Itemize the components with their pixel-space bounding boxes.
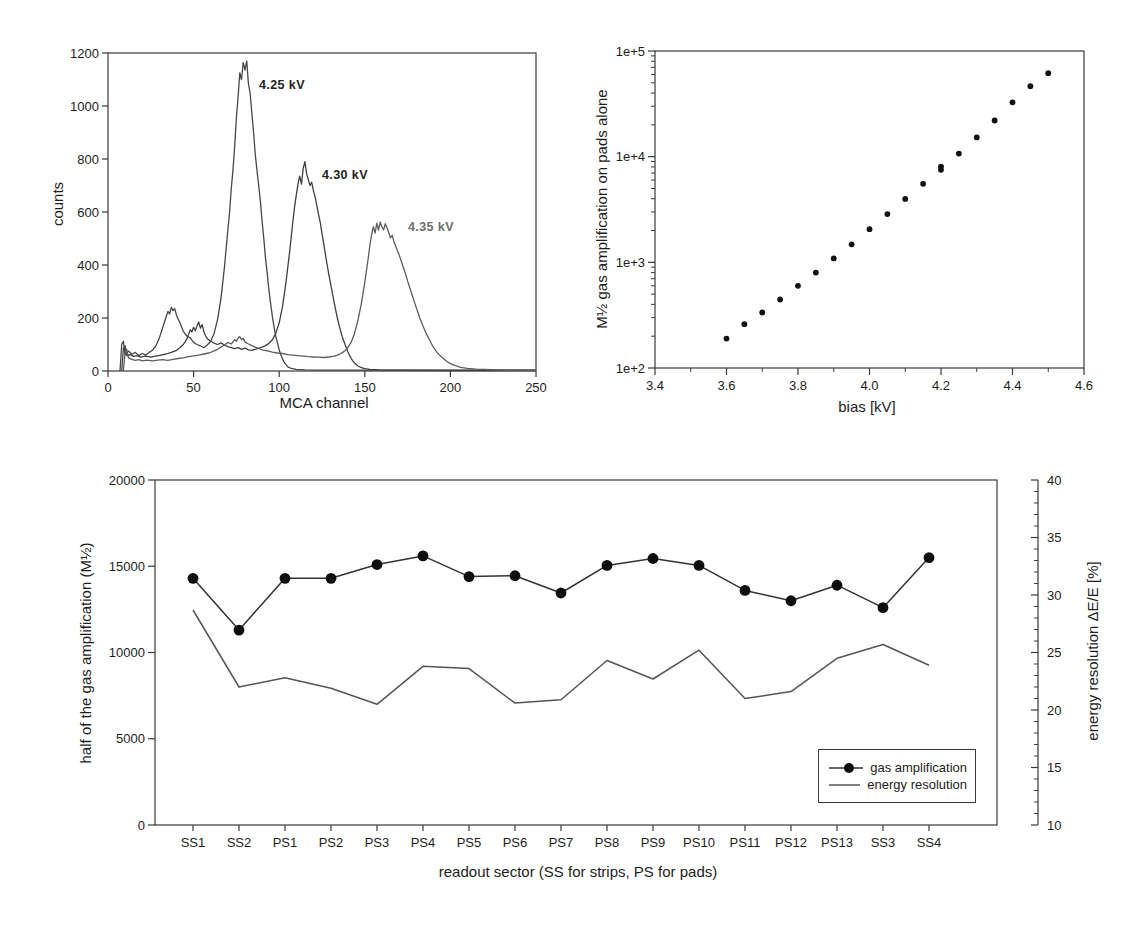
data-point-marker	[924, 552, 935, 563]
data-point-marker	[740, 585, 751, 596]
category-label: PS9	[641, 835, 666, 850]
legend-entry-gas-amplification: gas amplification	[827, 760, 967, 775]
y-tick-label: 1e+2	[616, 361, 645, 376]
category-label: PS8	[595, 835, 620, 850]
series-spectrum-4-25-kv	[120, 61, 536, 371]
peak-label-4-25kv: 4.25 kV	[259, 78, 305, 92]
series-spectrum-4-30-kv	[122, 162, 536, 371]
readout-sector-axis-title: readout sector (SS for strips, PS for pa…	[439, 863, 717, 880]
x-tick-label: 50	[186, 380, 200, 395]
plot-frame	[108, 53, 536, 371]
data-point-marker	[464, 571, 475, 582]
category-label: SS4	[917, 835, 942, 850]
plot-frame	[655, 51, 1084, 368]
right-axis-title: energy resolution ΔE/E [%]	[1084, 561, 1101, 740]
scatter-point	[992, 118, 998, 124]
scatter-point	[920, 181, 926, 187]
right-y-tick-label: 25	[1047, 645, 1061, 660]
x-tick-label: 3.8	[789, 378, 807, 393]
data-point-marker	[556, 588, 567, 599]
data-point-marker	[694, 560, 705, 571]
legend-box: gas amplification energy resolution	[818, 749, 976, 803]
y-tick-label: 1e+4	[616, 149, 645, 164]
sector-uniformity-chart: 05000100001500020000SS1SS2PS1PS2PS3PS4PS…	[55, 448, 1131, 920]
left-axis-title: half of the gas amplification (M½)	[77, 543, 94, 764]
data-point-marker	[372, 559, 383, 570]
peak-label-4-35kv: 4.35 kV	[408, 220, 454, 234]
counts-axis-title: counts	[49, 182, 66, 226]
y-tick-label: 600	[77, 205, 99, 220]
scanned-figure-page: 050100150200250020040060080010001200 cou…	[0, 0, 1131, 925]
data-point-marker	[280, 573, 291, 584]
category-label: PS6	[503, 835, 528, 850]
scatter-point	[867, 226, 873, 232]
scatter-point	[724, 336, 730, 342]
category-label: PS13	[821, 835, 853, 850]
legend-marker-energy-resolution	[827, 778, 860, 792]
x-tick-label: 0	[104, 380, 111, 395]
gain-vs-bias-chart: 3.43.63.84.04.24.44.61e+21e+31e+41e+5	[560, 18, 1131, 440]
scatter-point	[938, 164, 944, 170]
scatter-point	[884, 211, 890, 217]
category-label: SS2	[227, 835, 252, 850]
left-y-tick-label: 10000	[109, 645, 145, 660]
right-y-tick-label: 30	[1047, 588, 1061, 603]
category-label: PS10	[683, 835, 715, 850]
y-tick-label: 1e+3	[616, 255, 645, 270]
legend-label-energy-resolution: energy resolution	[867, 777, 967, 792]
series-energy-resolution	[193, 610, 929, 704]
category-label: SS1	[181, 835, 206, 850]
peak-label-4-30kv: 4.30 kV	[322, 168, 368, 182]
category-label: PS11	[730, 835, 761, 850]
data-point-marker	[188, 573, 199, 584]
y-tick-label: 200	[77, 311, 99, 326]
legend-marker-gas-amplification	[827, 761, 863, 775]
x-tick-label: 150	[354, 380, 376, 395]
legend-entry-energy-resolution: energy resolution	[827, 777, 967, 792]
category-label: PS4	[411, 835, 436, 850]
y-tick-label: 1e+5	[616, 44, 645, 59]
x-tick-label: 3.6	[717, 378, 735, 393]
bias-axis-title: bias [kV]	[838, 398, 896, 415]
right-y-tick-label: 10	[1047, 818, 1061, 833]
data-point-marker	[234, 625, 245, 636]
y-tick-label: 400	[77, 258, 99, 273]
left-y-tick-label: 0	[138, 818, 145, 833]
right-y-tick-label: 35	[1047, 530, 1061, 545]
right-y-tick-label: 40	[1047, 473, 1061, 488]
category-label: SS3	[871, 835, 896, 850]
data-point-marker	[878, 602, 889, 613]
y-tick-label: 1000	[70, 99, 99, 114]
data-point-marker	[648, 553, 659, 564]
scatter-point	[777, 297, 783, 303]
category-label: PS2	[319, 835, 344, 850]
scatter-point	[831, 255, 837, 261]
scatter-point	[956, 151, 962, 157]
right-y-tick-label: 20	[1047, 703, 1061, 718]
data-point-marker	[786, 595, 797, 606]
data-point-marker	[326, 573, 337, 584]
category-label: PS5	[457, 835, 482, 850]
legend-label-gas-amplification: gas amplification	[870, 760, 967, 775]
data-point-marker	[602, 560, 613, 571]
scatter-point	[795, 283, 801, 289]
data-point-marker	[510, 570, 521, 581]
category-label: PS12	[775, 835, 807, 850]
x-tick-label: 4.2	[932, 378, 950, 393]
x-tick-label: 4.0	[860, 378, 878, 393]
x-tick-label: 250	[525, 380, 547, 395]
scatter-point	[902, 196, 908, 202]
scatter-point	[1045, 70, 1051, 76]
scatter-point	[813, 270, 819, 276]
scatter-point	[1010, 99, 1016, 105]
x-tick-label: 100	[268, 380, 290, 395]
series-spectrum-4-35-kv	[123, 222, 536, 371]
right-y-tick-label: 15	[1047, 760, 1061, 775]
scatter-point	[1027, 83, 1033, 89]
category-label: PS7	[549, 835, 574, 850]
mca-channel-axis-title: MCA channel	[279, 394, 368, 411]
gain-axis-title: M½ gas amplification on pads alone	[593, 89, 610, 328]
y-tick-label: 1200	[70, 46, 99, 61]
category-label: PS3	[365, 835, 390, 850]
x-tick-label: 4.4	[1003, 378, 1021, 393]
